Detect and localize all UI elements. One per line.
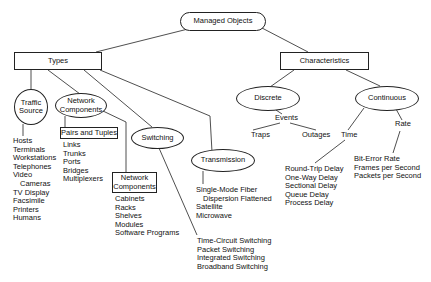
pairs-and-tuples-list: Links Trunks Ports Bridges Multiplexers: [63, 141, 103, 184]
node-types: Types: [14, 52, 102, 70]
time-list: Round-Trip Delay One-Way Delay Sectional…: [285, 165, 344, 208]
node-label: Pairs and Tuples: [61, 129, 117, 137]
list-item: Microwave: [196, 212, 272, 221]
transmission-list: Single-Mode Fiber Dispersion Flattened S…: [196, 186, 272, 220]
node-label: Continuous: [368, 94, 406, 102]
list-item: Broadband Switching: [197, 263, 271, 272]
list-item: Packets per Second: [354, 172, 421, 181]
node-label: Characteristics: [300, 57, 350, 65]
node-label: Network Components: [59, 97, 103, 114]
traffic-source-list: Hosts Terminals Workstations Telephones …: [13, 137, 56, 223]
node-pairs-and-tuples: Pairs and Tuples: [60, 127, 118, 139]
node-transmission: Transmission: [191, 149, 255, 172]
label-time: Time: [341, 131, 357, 139]
node-network-components: Network Components: [55, 93, 107, 118]
list-item: Software Programs: [115, 229, 179, 238]
node-switching: Switching: [131, 127, 184, 149]
node-label: Traffic Source: [17, 99, 45, 116]
network-components-list: Cabinets Racks Shelves Modules Software …: [115, 195, 179, 238]
node-continuous: Continuous: [355, 86, 419, 111]
node-managed-objects: Managed Objects: [180, 12, 266, 31]
node-characteristics: Characteristics: [280, 52, 369, 70]
label-events: Events: [275, 114, 298, 122]
switching-list: Time-Circuit Switching Packet Switching …: [197, 237, 271, 271]
rate-list: Bit-Error Rate Frames per Second Packets…: [354, 155, 421, 181]
node-label: Discrete: [254, 94, 282, 102]
node-label: Types: [48, 57, 68, 65]
node-discrete: Discrete: [236, 86, 300, 111]
node-traffic-source: Traffic Source: [14, 89, 48, 125]
label-rate: Rate: [395, 120, 411, 128]
label-outages: Outages: [302, 131, 330, 139]
node-label: Network Components: [113, 174, 156, 191]
list-item: Humans: [13, 214, 56, 223]
list-item: Process Delay: [285, 199, 344, 208]
node-label: Switching: [141, 134, 173, 142]
node-network-components-box: Network Components: [112, 172, 157, 193]
list-item: Multiplexers: [63, 175, 103, 184]
node-label: Transmission: [201, 156, 245, 164]
node-label: Managed Objects: [194, 17, 253, 25]
label-traps: Traps: [251, 131, 270, 139]
